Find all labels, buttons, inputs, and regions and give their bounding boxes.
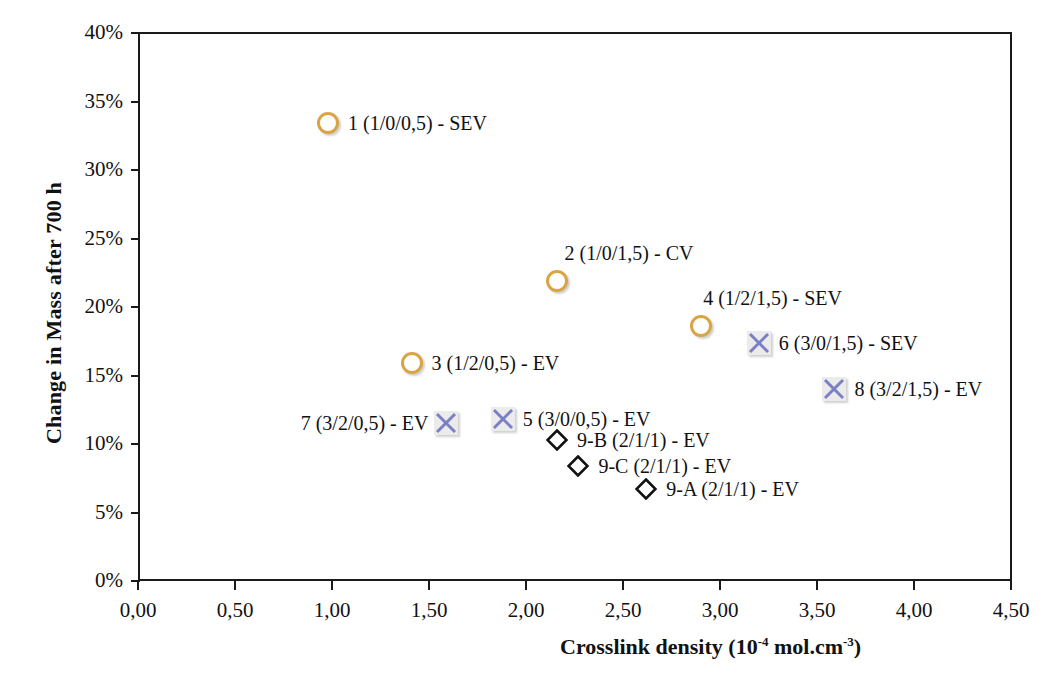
- y-tick-mark: [131, 101, 140, 103]
- point-label: 3 (1/2/0,5) - EV: [432, 353, 560, 373]
- x-tick-mark: [1010, 581, 1012, 590]
- point-label: 5 (3/0/0,5) - EV: [523, 409, 651, 429]
- x-tick-mark: [816, 581, 818, 590]
- x-tick-label: 1,00: [287, 597, 377, 623]
- x-tick-label-wrap: 0,50: [190, 597, 280, 623]
- x-tick-mark: [719, 581, 721, 590]
- x-tick-label-wrap: 4,00: [869, 597, 959, 623]
- plot-area: [138, 33, 1012, 581]
- point-label: 6 (3/0/1,5) - SEV: [779, 333, 918, 353]
- y-tick-label: 0%: [53, 570, 123, 591]
- point-label: 1 (1/0/0,5) - SEV: [348, 113, 487, 133]
- y-tick-mark: [131, 306, 140, 308]
- y-tick-mark: [131, 375, 140, 377]
- x-tick-mark: [234, 581, 236, 590]
- x-tick-mark: [913, 581, 915, 590]
- point-label: 4 (1/2/1,5) - SEV: [703, 288, 842, 308]
- x-axis-title: Crosslink density (10-4 mol.cm-3): [560, 634, 1060, 660]
- diamond-marker: [567, 455, 589, 477]
- scatter-chart: 0%5%10%15%20%25%30%35%40% 0,000,501,001,…: [0, 0, 1062, 685]
- point-label: 9-A (2/1/1) - EV: [666, 479, 799, 499]
- x-tick-label: 2,00: [481, 597, 571, 623]
- x-tick-label: 0,00: [93, 597, 183, 623]
- y-tick-mark: [131, 512, 140, 514]
- x-tick-label-wrap: 1,50: [384, 597, 474, 623]
- x-tick-label: 4,50: [966, 597, 1056, 623]
- x-axis-title-suffix: ): [854, 634, 861, 659]
- x-tick-mark: [622, 581, 624, 590]
- x-axis-title-mid: mol.cm: [768, 634, 843, 659]
- diamond-marker: [635, 478, 657, 500]
- point-label: 2 (1/0/1,5) - CV: [565, 243, 694, 263]
- diamond-marker: [546, 429, 568, 451]
- y-tick-mark: [131, 32, 140, 34]
- y-tick-label-wrap: 40%: [48, 22, 123, 43]
- point-label: 9-B (2/1/1) - EV: [577, 430, 710, 450]
- circle-marker: [401, 352, 423, 374]
- x-tick-label: 0,50: [190, 597, 280, 623]
- y-tick-label-wrap: 0%: [48, 570, 123, 591]
- x-tick-mark: [137, 581, 139, 590]
- y-tick-mark: [131, 169, 140, 171]
- x-marker: [491, 407, 515, 431]
- x-tick-label-wrap: 4,50: [966, 597, 1056, 623]
- x-tick-label-wrap: 0,00: [93, 597, 183, 623]
- circle-marker: [317, 112, 339, 134]
- point-label: 8 (3/2/1,5) - EV: [854, 379, 982, 399]
- y-tick-mark: [131, 443, 140, 445]
- y-tick-label: 40%: [53, 22, 123, 43]
- x-tick-label-wrap: 1,00: [287, 597, 377, 623]
- x-tick-mark: [331, 581, 333, 590]
- x-tick-label: 1,50: [384, 597, 474, 623]
- x-tick-label: 3,00: [675, 597, 765, 623]
- y-axis-title: Change in Mass after 700 h: [41, 63, 67, 563]
- x-tick-label: 2,50: [578, 597, 668, 623]
- x-tick-label-wrap: 3,50: [772, 597, 862, 623]
- x-tick-label: 4,00: [869, 597, 959, 623]
- x-tick-label-wrap: 2,50: [578, 597, 668, 623]
- x-axis-title-exponent-2: -3: [843, 634, 854, 649]
- point-label: 7 (3/2/0,5) - EV: [301, 413, 429, 433]
- point-label: 9-C (2/1/1) - EV: [598, 456, 731, 476]
- x-axis-title-prefix: Crosslink density (10: [560, 634, 758, 659]
- x-axis-title-exponent-1: -4: [758, 634, 769, 649]
- x-tick-label-wrap: 2,00: [481, 597, 571, 623]
- x-marker: [434, 411, 458, 435]
- x-marker: [747, 331, 771, 355]
- circle-marker: [546, 270, 568, 292]
- x-tick-label: 3,50: [772, 597, 862, 623]
- x-tick-label-wrap: 3,00: [675, 597, 765, 623]
- y-tick-mark: [131, 238, 140, 240]
- x-tick-mark: [525, 581, 527, 590]
- x-tick-mark: [428, 581, 430, 590]
- scan-artifact-text: [30, 0, 650, 12]
- x-marker: [822, 377, 846, 401]
- circle-marker: [690, 315, 712, 337]
